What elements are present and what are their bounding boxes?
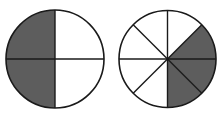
shaded-sector-right-upper [168, 25, 217, 59]
fraction-figure [0, 0, 224, 118]
eighths-circle [119, 11, 216, 108]
quarters-circle [6, 10, 104, 108]
